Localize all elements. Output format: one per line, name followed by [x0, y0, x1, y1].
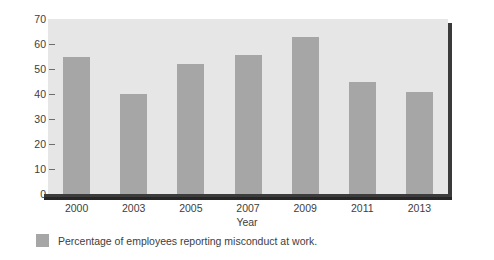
y-tick-mark-30 — [49, 119, 55, 120]
y-tick-label-0: 0 — [24, 189, 46, 199]
y-tick-mark-60 — [49, 44, 55, 45]
bar-2003 — [120, 94, 147, 194]
x-tick-label-2013: 2013 — [391, 202, 448, 214]
x-tick-label-2003: 2003 — [105, 202, 162, 214]
bar-2013 — [406, 92, 433, 195]
x-tick-label-2009: 2009 — [277, 202, 334, 214]
y-tick-label-70: 70 — [24, 14, 46, 24]
y-tick-mark-20 — [49, 144, 55, 145]
plot-area-shadow — [448, 23, 452, 198]
chart-legend: Percentage of employees reporting miscon… — [36, 234, 317, 247]
plot-area — [48, 19, 448, 194]
y-tick-label-50: 50 — [24, 64, 46, 74]
x-tick-label-2000: 2000 — [48, 202, 105, 214]
bar-chart-figure: 010203040506070 200020032005200720092011… — [0, 0, 494, 260]
x-tick-label-2011: 2011 — [334, 202, 391, 214]
y-tick-label-40: 40 — [24, 89, 46, 99]
x-tick-label-2007: 2007 — [219, 202, 276, 214]
x-tick-label-2005: 2005 — [162, 202, 219, 214]
bar-2007 — [235, 55, 262, 194]
y-tick-label-10: 10 — [24, 164, 46, 174]
y-tick-label-60: 60 — [24, 39, 46, 49]
bar-2000 — [63, 57, 90, 195]
x-axis-title: Year — [0, 216, 494, 228]
bar-2009 — [292, 37, 319, 195]
y-tick-label-30: 30 — [24, 114, 46, 124]
bar-2005 — [177, 64, 204, 194]
y-tick-mark-50 — [49, 69, 55, 70]
y-tick-mark-10 — [49, 169, 55, 170]
x-axis-line-shadow — [44, 197, 452, 200]
y-tick-label-20: 20 — [24, 139, 46, 149]
legend-label: Percentage of employees reporting miscon… — [58, 235, 317, 247]
legend-color-swatch — [36, 234, 49, 247]
y-tick-mark-40 — [49, 94, 55, 95]
bar-2011 — [349, 82, 376, 195]
